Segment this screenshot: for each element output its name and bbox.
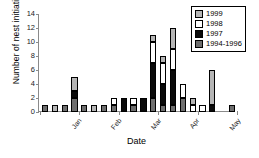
bar-Jan-2 bbox=[52, 105, 58, 112]
legend-swatch-icon bbox=[195, 10, 203, 18]
y-tick-mark bbox=[36, 28, 39, 29]
bar-segment-1998 bbox=[170, 49, 176, 70]
bar-Mar-2 bbox=[130, 98, 136, 112]
bar-May-2 bbox=[209, 70, 215, 112]
legend-item-1997: 1997 bbox=[195, 29, 242, 39]
bar-Apr-4 bbox=[190, 98, 196, 112]
x-axis-title: Date bbox=[38, 136, 235, 146]
bar-Jan-4 bbox=[71, 77, 77, 112]
y-tick-mark bbox=[36, 14, 39, 15]
y-tick-mark bbox=[36, 56, 39, 57]
legend-item-1998: 1998 bbox=[195, 19, 242, 29]
bar-segment-1994-1996 bbox=[130, 105, 136, 112]
bar-Feb-1 bbox=[81, 105, 87, 112]
bar-segment-1997 bbox=[150, 63, 156, 98]
bar-segment-1994-1996 bbox=[42, 105, 48, 112]
bar-Jan-1 bbox=[42, 105, 48, 112]
bar-segment-1998 bbox=[190, 105, 196, 112]
legend-item-1999: 1999 bbox=[195, 9, 242, 19]
bar-segment-1998 bbox=[111, 98, 117, 105]
bar-segment-1998 bbox=[180, 84, 186, 98]
y-tick-mark bbox=[36, 70, 39, 71]
bar-segment-1997 bbox=[71, 91, 77, 98]
bar-segment-1999 bbox=[52, 105, 58, 112]
bar-segment-1999 bbox=[71, 77, 77, 91]
bar-Jan-3 bbox=[62, 105, 68, 112]
bar-segment-1999 bbox=[190, 98, 196, 105]
y-tick-label: 10 bbox=[5, 38, 38, 46]
bar-segment-1998 bbox=[130, 98, 136, 105]
legend-item-1994-1996: 1994-1996 bbox=[195, 39, 242, 49]
bar-segment-1997 bbox=[140, 98, 146, 112]
y-tick-label: 0 bbox=[5, 108, 38, 116]
x-tick-mark bbox=[158, 111, 159, 115]
x-tick-label-feb: Feb bbox=[110, 117, 123, 131]
x-tick-mark bbox=[79, 111, 80, 115]
nest-initiations-bar-chart: Number of nest initiations 02468101214 J… bbox=[0, 0, 259, 158]
bar-segment-1997 bbox=[209, 105, 215, 112]
legend-label: 1998 bbox=[206, 20, 223, 28]
bar-segment-1997 bbox=[160, 84, 166, 105]
bar-Mar-1 bbox=[121, 98, 127, 112]
bar-segment-1999 bbox=[91, 105, 97, 112]
y-tick-label: 6 bbox=[5, 66, 38, 74]
legend-swatch-icon bbox=[195, 40, 203, 48]
bar-Apr-2 bbox=[170, 28, 176, 112]
x-tick-label-mar: Mar bbox=[149, 117, 162, 131]
y-tick-label: 2 bbox=[5, 94, 38, 102]
y-tick-mark bbox=[36, 84, 39, 85]
bar-May-4 bbox=[229, 105, 235, 112]
x-tick-label-jan: Jan bbox=[70, 117, 82, 130]
y-tick-label: 12 bbox=[5, 24, 38, 32]
bar-segment-1994-1996 bbox=[111, 105, 117, 112]
bar-segment-1994-1996 bbox=[62, 105, 68, 112]
bar-segment-1999 bbox=[209, 70, 215, 105]
x-tick-mark bbox=[119, 111, 120, 115]
bar-segment-1994-1996 bbox=[150, 98, 156, 112]
legend-label: 1999 bbox=[206, 10, 223, 18]
bar-segment-1999 bbox=[170, 28, 176, 49]
bar-May-1 bbox=[199, 105, 205, 112]
legend-label: 1997 bbox=[206, 30, 223, 38]
bar-segment-1994-1996 bbox=[160, 105, 166, 112]
y-tick-label: 4 bbox=[5, 80, 38, 88]
legend: 1999199819971994-1996 bbox=[191, 6, 246, 52]
bar-Feb-4 bbox=[111, 98, 117, 112]
y-tick-mark bbox=[36, 42, 39, 43]
bar-segment-1994-1996 bbox=[81, 105, 87, 112]
x-tick-mark bbox=[237, 111, 238, 115]
bar-Feb-3 bbox=[101, 105, 107, 112]
bar-segment-1999 bbox=[150, 35, 156, 42]
x-tick-mark bbox=[40, 111, 41, 115]
legend-label: 1994-1996 bbox=[206, 40, 242, 48]
y-tick-mark bbox=[36, 112, 39, 113]
y-tick-mark bbox=[36, 98, 39, 99]
y-tick-label: 14 bbox=[5, 10, 38, 18]
bar-segment-1997 bbox=[170, 70, 176, 105]
x-tick-mark bbox=[198, 111, 199, 115]
bar-Feb-2 bbox=[91, 105, 97, 112]
x-tick-label-apr: Apr bbox=[188, 117, 200, 130]
x-tick-label-may: May bbox=[228, 117, 242, 132]
bar-segment-1997 bbox=[121, 98, 127, 112]
bar-Apr-3 bbox=[180, 84, 186, 112]
legend-swatch-icon bbox=[195, 30, 203, 38]
bar-Mar-3 bbox=[140, 98, 146, 112]
bar-segment-1998 bbox=[199, 105, 205, 112]
bar-segment-1994-1996 bbox=[229, 105, 235, 112]
bar-segment-1998 bbox=[150, 42, 156, 63]
bar-segment-1994-1996 bbox=[170, 105, 176, 112]
bar-segment-1994-1996 bbox=[180, 98, 186, 112]
bar-Mar-4 bbox=[150, 35, 156, 112]
bar-segment-1998 bbox=[160, 63, 166, 84]
y-tick-label: 8 bbox=[5, 52, 38, 60]
bar-segment-1994-1996 bbox=[101, 105, 107, 112]
bar-Apr-1 bbox=[160, 56, 166, 112]
legend-swatch-icon bbox=[195, 20, 203, 28]
bar-segment-1994-1996 bbox=[71, 98, 77, 112]
bar-segment-1999 bbox=[160, 56, 166, 63]
